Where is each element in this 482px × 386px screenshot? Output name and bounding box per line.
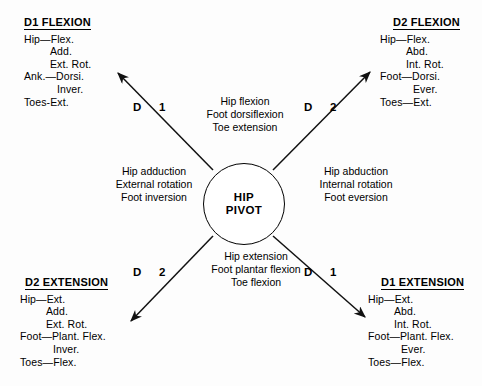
hip-pivot-circle: HIP PIVOT	[203, 163, 285, 245]
pattern-row: Toes-Ext.	[24, 96, 91, 109]
pattern-row: Inver.	[24, 83, 91, 96]
pattern-row: Ever.	[380, 83, 460, 96]
pattern-block-d1-extension: D1 EXTENSION Hip—Ext. Abd. Int. Rot. Foo…	[368, 276, 464, 368]
quadrant-line: Internal rotation	[296, 178, 416, 191]
pattern-row: Hip—Ext.	[20, 293, 108, 306]
quadrant-text-right: Hip abduction Internal rotation Foot eve…	[296, 165, 416, 204]
pattern-row: Ank.—Dorsi.	[24, 70, 91, 83]
quadrant-line: Foot dorsiflexion	[181, 108, 309, 121]
pattern-row: Abd.	[380, 45, 460, 58]
pattern-title-d1-extension: D1 EXTENSION	[381, 276, 464, 290]
pattern-row: Add.	[24, 45, 91, 58]
pattern-row: Foot—Dorsi.	[380, 70, 460, 83]
quadrant-line: Foot eversion	[296, 191, 416, 204]
axis-label-letter: D	[304, 101, 313, 113]
pattern-row: Abd.	[368, 305, 464, 318]
quadrant-text-top: Hip flexion Foot dorsiflexion Toe extens…	[181, 95, 309, 134]
quadrant-line: Hip abduction	[296, 165, 416, 178]
pattern-row: Hip—Ext.	[368, 293, 464, 306]
axis-label-number: 1	[159, 101, 166, 113]
pattern-row: Inver.	[20, 343, 108, 356]
pattern-row: Int. Rot.	[368, 318, 464, 331]
pattern-row: Toes—Ext.	[380, 96, 460, 109]
pivot-label-line1: HIP	[234, 191, 254, 205]
pattern-row: Toes—Flex.	[368, 356, 464, 369]
pattern-row: Foot—Plant. Flex.	[368, 330, 464, 343]
pattern-row: Add.	[20, 305, 108, 318]
axis-label-letter: D	[304, 266, 313, 278]
pnf-hip-pivot-diagram: D1 FLEXION Hip—Flex. Add. Ext. Rot. Ank.…	[0, 0, 482, 386]
pattern-row: Ext. Rot.	[24, 58, 91, 71]
axis-label-letter: D	[133, 101, 142, 113]
pattern-row: Hip—Flex.	[24, 33, 91, 46]
axis-label-number: 2	[159, 266, 166, 278]
pivot-label-line2: PIVOT	[226, 204, 263, 218]
quadrant-line: Hip adduction	[96, 165, 212, 178]
pattern-row: Foot—Plant. Flex.	[20, 330, 108, 343]
pattern-title-d2-flexion: D2 FLEXION	[393, 16, 460, 30]
pattern-row: Hip—Flex.	[380, 33, 460, 46]
pattern-block-d1-flexion: D1 FLEXION Hip—Flex. Add. Ext. Rot. Ank.…	[24, 16, 91, 108]
pattern-title-d2-extension: D2 EXTENSION	[25, 276, 108, 290]
pattern-row: Int. Rot.	[380, 58, 460, 71]
pattern-row: Ever.	[368, 343, 464, 356]
pattern-row: Toes—Flex.	[20, 356, 108, 369]
quadrant-line: Toe extension	[181, 121, 309, 134]
quadrant-line: Hip flexion	[181, 95, 309, 108]
axis-label-letter: D	[133, 266, 142, 278]
pattern-block-d2-extension: D2 EXTENSION Hip—Ext. Add. Ext. Rot. Foo…	[20, 276, 108, 368]
quadrant-line: Hip extension	[186, 250, 326, 263]
pattern-title-d1-flexion: D1 FLEXION	[24, 16, 91, 30]
quadrant-line: Foot inversion	[96, 191, 212, 204]
axis-label-number: 1	[330, 266, 337, 278]
quadrant-text-left: Hip adduction External rotation Foot inv…	[96, 165, 212, 204]
quadrant-line: External rotation	[96, 178, 212, 191]
axis-label-number: 2	[330, 101, 337, 113]
pattern-row: Ext. Rot.	[20, 318, 108, 331]
pattern-block-d2-flexion: D2 FLEXION Hip—Flex. Abd. Int. Rot. Foot…	[380, 16, 460, 108]
